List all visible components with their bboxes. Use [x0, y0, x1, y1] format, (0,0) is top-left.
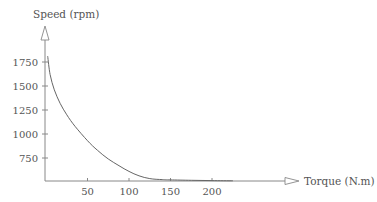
y-tick-label: 1250: [13, 105, 38, 116]
x-tick-label: 200: [202, 186, 221, 197]
y-axis-arrow-icon: [41, 26, 49, 40]
x-axis-arrow-icon: [285, 178, 299, 185]
x-tick-label: 150: [161, 186, 180, 197]
x-axis-title: Torque (N.m): [304, 175, 375, 187]
y-tick-label: 1750: [13, 57, 38, 68]
y-tick-label: 750: [19, 153, 38, 164]
y-axis-title: Speed (rpm): [33, 8, 99, 20]
x-tick-label: 100: [119, 186, 138, 197]
y-tick-label: 1000: [13, 129, 38, 140]
speed-torque-curve: [48, 56, 233, 181]
x-tick-label: 50: [81, 186, 94, 197]
y-ticks: 7501000125015001750: [13, 57, 48, 164]
y-tick-label: 1500: [13, 81, 38, 92]
speed-torque-chart: 7501000125015001750 50100150200 Speed (r…: [0, 0, 377, 202]
